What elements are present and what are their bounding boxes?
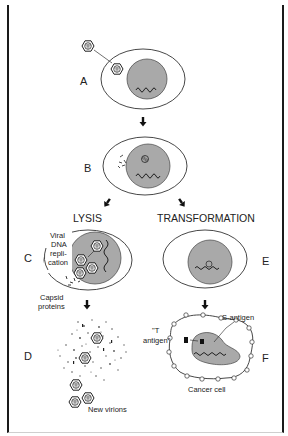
lysis-heading: LYSIS — [73, 212, 102, 224]
panel-d: D New virions — [24, 319, 127, 414]
arrow-down-icon — [202, 300, 209, 310]
transformation-heading: TRANSFORMATION — [157, 212, 255, 224]
virion-icon — [79, 353, 91, 363]
cell-debris — [57, 319, 126, 380]
t-antigen-icon — [200, 339, 204, 344]
virion-icon — [82, 393, 94, 403]
virion-icon — [74, 268, 86, 278]
arrow-lysis-icon — [102, 197, 113, 209]
virion-icon — [111, 64, 123, 74]
panel-c-label: C — [24, 252, 32, 264]
viral-dna-label: repli- — [50, 249, 67, 258]
viral-dna-label: DNA — [51, 240, 67, 249]
panel-b-label: B — [84, 162, 91, 174]
panel-d-label: D — [24, 350, 32, 362]
virus-infection-diagram: A B LYSIS TRANSFORMATION C — [0, 0, 288, 436]
arrow-down-icon — [84, 300, 91, 310]
panel-e: E — [163, 230, 269, 288]
arrow-transformation-icon — [176, 197, 187, 209]
virion-icon — [91, 333, 103, 343]
cancer-cell-label: Cancer cell — [188, 385, 226, 394]
panel-b: B — [84, 137, 187, 195]
viral-dna-label: cation — [48, 258, 68, 267]
capsid-proteins-label: proteins — [38, 302, 65, 311]
t-antigen-label: antigen" — [143, 336, 171, 345]
nucleus — [188, 240, 232, 284]
virion-icon — [69, 397, 81, 407]
panel-a-label: A — [80, 75, 88, 87]
virion-icon — [82, 41, 94, 51]
t-antigen-label: "T — [152, 326, 160, 335]
virion-icon — [91, 241, 103, 251]
panel-f: "T antigen" S-antigen F Cancer cell — [143, 313, 269, 394]
new-virions-label: New virions — [88, 405, 127, 414]
viral-dna-label: Viral — [50, 231, 65, 240]
nucleus — [126, 144, 170, 188]
t-antigen-icon — [184, 337, 188, 343]
capsid-proteins-label: Capsid — [40, 293, 63, 302]
s-antigen-label: S-antigen — [222, 313, 254, 322]
panel-f-label: F — [262, 352, 269, 364]
virion-icon — [75, 255, 87, 265]
panel-e-label: E — [262, 255, 269, 267]
panel-a: A — [80, 41, 185, 109]
arrow-down-icon — [140, 117, 147, 127]
panel-c: C Viral DNA repli- cation Capsid protein… — [24, 230, 132, 311]
nucleus — [127, 59, 167, 99]
virion-icon — [70, 380, 82, 390]
entry-arrow-icon — [94, 50, 112, 63]
virion-icon — [86, 263, 98, 273]
